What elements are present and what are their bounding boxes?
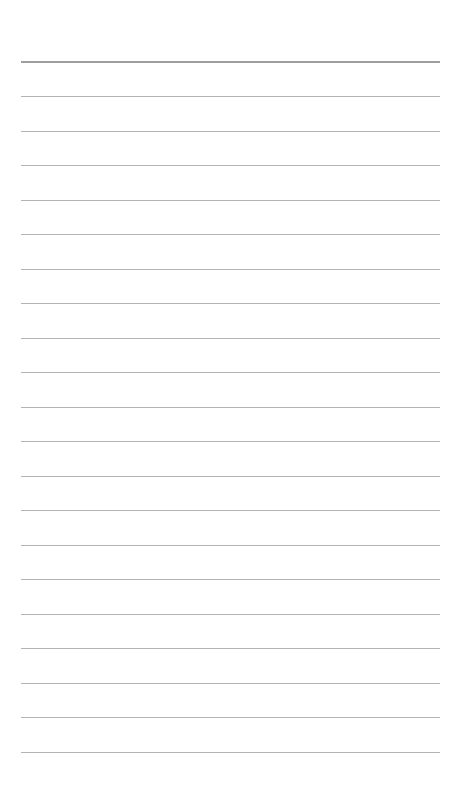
ruled-line xyxy=(21,476,440,477)
ruled-line xyxy=(21,407,440,408)
ruled-line xyxy=(21,752,440,753)
ruled-line xyxy=(21,165,440,166)
ruled-line xyxy=(21,131,440,132)
ruled-line xyxy=(21,372,440,373)
ruled-line xyxy=(21,510,440,511)
ruled-line xyxy=(21,717,440,718)
ruled-page xyxy=(0,0,460,796)
ruled-line xyxy=(21,234,440,235)
ruled-line xyxy=(21,648,440,649)
ruled-line xyxy=(21,683,440,684)
header-rule xyxy=(21,61,440,63)
ruled-line xyxy=(21,96,440,97)
ruled-line xyxy=(21,338,440,339)
ruled-line xyxy=(21,303,440,304)
ruled-line xyxy=(21,545,440,546)
ruled-line xyxy=(21,269,440,270)
ruled-line xyxy=(21,614,440,615)
ruled-line xyxy=(21,579,440,580)
ruled-line xyxy=(21,200,440,201)
ruled-line xyxy=(21,441,440,442)
